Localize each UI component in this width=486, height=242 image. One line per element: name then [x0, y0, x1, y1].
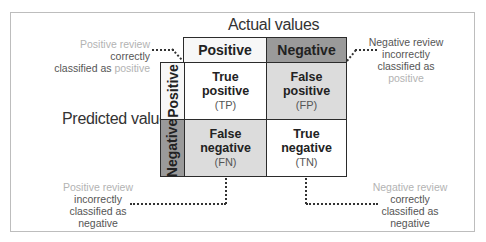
- note-true-positive: Positive review correctly classified as …: [40, 38, 150, 74]
- row-header-label: Positive: [165, 64, 181, 118]
- note-text: Negative review: [369, 36, 444, 48]
- note-highlight: Positive review: [80, 38, 150, 50]
- note-text: negative: [390, 217, 430, 229]
- connector-line: [130, 203, 226, 205]
- cell-false-negative: False negative (FN): [184, 119, 267, 177]
- note-highlight: Positive review: [63, 181, 133, 193]
- cell-true-positive: True positive (TP): [184, 62, 267, 120]
- row-header-positive: Positive: [160, 62, 185, 120]
- note-highlight: Negative review: [373, 181, 448, 193]
- note-text: classified as: [54, 62, 114, 74]
- row-header-label: Negative: [165, 119, 181, 177]
- actual-values-title: Actual values: [228, 16, 319, 34]
- connector-line: [305, 178, 307, 204]
- cell-abbreviation: (TN): [296, 155, 318, 169]
- cell-line: False: [210, 127, 242, 141]
- note-false-negative: Positive review incorrectly classified a…: [58, 181, 138, 229]
- cell-line: False: [291, 70, 323, 84]
- cell-line: negative: [281, 141, 332, 155]
- predicted-values-title: Predicted values: [62, 110, 176, 128]
- cell-line: positive: [283, 84, 330, 98]
- note-text: classified as: [377, 60, 434, 72]
- cell-false-positive: False positive (FP): [266, 62, 347, 120]
- cell-line: negative: [200, 141, 251, 155]
- note-text: classified as: [381, 205, 438, 217]
- cell-abbreviation: (FN): [215, 155, 237, 169]
- cell-line: positive: [202, 84, 249, 98]
- note-text: negative: [78, 217, 118, 229]
- connector-line: [171, 48, 185, 62]
- note-text: correctly: [390, 193, 430, 205]
- note-text: incorrectly: [74, 193, 122, 205]
- note-false-positive: Negative review incorrectly classified a…: [356, 36, 456, 84]
- note-text: incorrectly: [382, 48, 430, 60]
- column-header-negative: Negative: [266, 37, 347, 63]
- note-highlight: positive: [114, 62, 150, 74]
- cell-line: True: [293, 127, 319, 141]
- note-text: correctly: [110, 50, 150, 62]
- note-highlight: positive: [388, 72, 424, 84]
- connector-line: [225, 178, 227, 204]
- cell-line: True: [212, 70, 238, 84]
- cell-abbreviation: (FP): [296, 98, 317, 112]
- column-header-label: Positive: [198, 42, 252, 58]
- column-header-positive: Positive: [183, 37, 267, 63]
- cell-true-negative: True negative (TN): [266, 119, 347, 177]
- connector-line: [306, 203, 378, 205]
- row-header-negative: Negative: [160, 119, 185, 177]
- connector-line: [355, 49, 377, 51]
- cell-abbreviation: (TP): [215, 98, 236, 112]
- column-header-label: Negative: [277, 42, 335, 58]
- note-true-negative: Negative review correctly classified as …: [360, 181, 460, 229]
- note-text: classified as: [69, 205, 126, 217]
